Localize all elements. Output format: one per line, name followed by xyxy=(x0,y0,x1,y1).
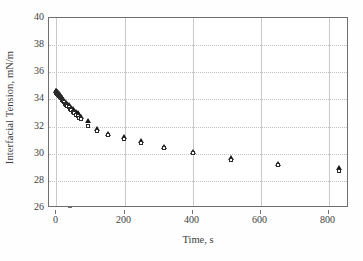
data-point-open-square xyxy=(162,146,166,150)
plot-area xyxy=(48,17,348,207)
x-axis-tick-label: 0 xyxy=(40,215,70,225)
y-axis-title: Interfacial Tension, mN/m xyxy=(0,0,20,215)
data-point-open-square xyxy=(106,133,110,137)
x-axis-tick-mark xyxy=(328,210,329,214)
y-axis-tick-labels: 2628303234363840 xyxy=(20,17,44,207)
y-axis-tick-label: 38 xyxy=(22,39,44,49)
y-axis-tick-label: 26 xyxy=(22,202,44,212)
x-axis-tick-labels: 0200400600800 xyxy=(48,210,348,230)
x-axis-tick-label: 200 xyxy=(109,215,139,225)
y-axis-tick-mark xyxy=(68,207,72,208)
x-axis-tick-mark xyxy=(55,210,56,214)
data-point-filled-triangle xyxy=(85,118,91,123)
figure-scatter-plot: Interfacial Tension, mN/m 26283032343638… xyxy=(0,0,363,261)
data-point-open-square xyxy=(86,124,90,128)
y-axis-tick-label: 34 xyxy=(22,93,44,103)
x-axis-title: Time, s xyxy=(48,234,348,245)
data-point-open-square xyxy=(122,137,126,141)
x-axis-tick-label: 600 xyxy=(245,215,275,225)
x-axis-tick-label: 400 xyxy=(177,215,207,225)
data-point-open-square xyxy=(139,141,143,145)
x-axis-tick-mark xyxy=(260,210,261,214)
x-axis-tick-mark xyxy=(192,210,193,214)
data-point-open-square xyxy=(276,163,280,167)
x-axis-tick-mark xyxy=(124,210,125,214)
y-axis-tick-label: 32 xyxy=(22,121,44,131)
data-point-open-square xyxy=(229,158,233,162)
plot-overlay xyxy=(48,17,348,207)
y-axis-tick-label: 28 xyxy=(22,175,44,185)
y-axis-tick-label: 30 xyxy=(22,148,44,158)
data-point-open-square xyxy=(191,151,195,155)
y-axis-tick-label: 36 xyxy=(22,66,44,76)
data-point-open-square xyxy=(95,129,99,133)
y-axis-title-text: Interfacial Tension, mN/m xyxy=(5,51,16,164)
x-axis-tick-label: 800 xyxy=(313,215,343,225)
data-point-open-square xyxy=(337,169,341,173)
y-axis-tick-label: 40 xyxy=(22,12,44,22)
data-point-open-square xyxy=(79,117,83,121)
